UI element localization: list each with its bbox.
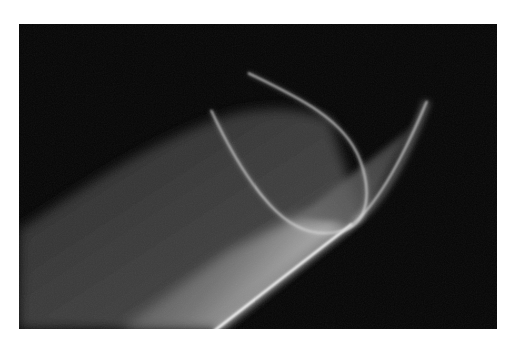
photograph [19, 24, 497, 329]
light-beam-artwork [19, 24, 497, 329]
